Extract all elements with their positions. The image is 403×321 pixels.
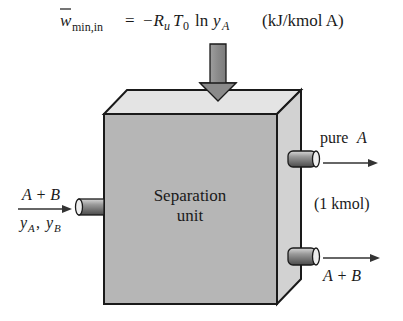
pure-a-label: pure	[320, 129, 348, 147]
svg-text:,: ,	[36, 214, 40, 231]
svg-text:y: y	[18, 214, 28, 232]
pure-a-species: A	[356, 129, 367, 146]
equation-w-subscript: min,in	[72, 20, 103, 34]
unit-top-face	[104, 90, 301, 114]
equation-ln: ln	[195, 11, 209, 30]
equation-T-subscript: 0	[183, 19, 189, 33]
equation-w-symbol: w	[60, 11, 72, 30]
inlet-label-top: A + B	[21, 186, 60, 203]
unit-side-face	[277, 90, 301, 304]
equation-units: (kJ/kmol A)	[262, 11, 344, 30]
pure-a-outlet-pipe	[288, 151, 320, 167]
minimum-work-equation: w min,in = −R u T 0 ln y A (kJ/kmol A)	[60, 9, 344, 34]
inlet-pipe	[76, 199, 105, 215]
equation-equals: =	[125, 11, 135, 30]
pure-a-amount: (1 kmol)	[314, 195, 370, 213]
equation-R-subscript: u	[164, 19, 170, 33]
inlet-arrow-icon	[18, 205, 72, 213]
svg-text:B: B	[54, 222, 61, 234]
svg-text:A: A	[27, 222, 35, 234]
inlet-label-bottom: y A , y B	[18, 214, 61, 234]
equation-R: −R	[142, 11, 164, 30]
mixture-outlet-pipe	[288, 248, 320, 265]
pure-a-outlet-arrow-icon	[323, 159, 378, 167]
mixture-outlet-arrow-icon	[323, 254, 380, 262]
equation-y-subscript: A	[221, 19, 230, 33]
equation-y: y	[211, 11, 221, 30]
unit-label-line1: Separation	[154, 186, 227, 205]
separation-unit-diagram: w min,in = −R u T 0 ln y A (kJ/kmol A) S…	[0, 0, 403, 321]
unit-label-line2: unit	[177, 206, 204, 225]
svg-text:y: y	[44, 214, 54, 232]
mixture-outlet-label: A + B	[322, 267, 361, 284]
